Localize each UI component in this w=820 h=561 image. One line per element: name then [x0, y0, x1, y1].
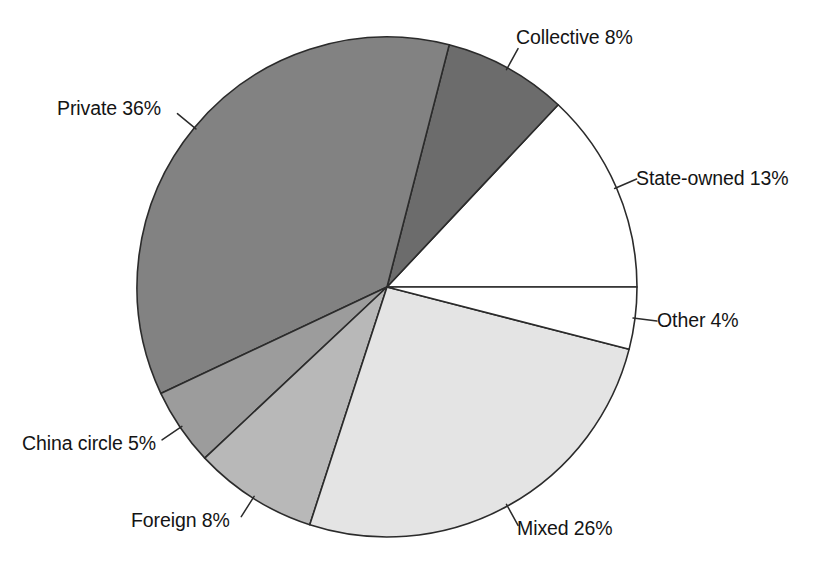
leader-line-foreign: [241, 496, 254, 516]
slice-label-other: Other 4%: [657, 311, 739, 331]
slice-label-private: Private 36%: [57, 99, 161, 119]
pie-chart-page: State-owned 13% Collective 8% Private 36…: [0, 0, 820, 561]
slice-label-state-owned: State-owned 13%: [636, 169, 788, 189]
pie-chart-canvas: [0, 0, 820, 561]
leader-line-china-circle: [162, 426, 182, 439]
slice-label-foreign: Foreign 8%: [131, 511, 230, 531]
leader-line-other: [633, 318, 657, 321]
leader-line-private: [177, 114, 195, 129]
leader-line-collective: [506, 49, 518, 70]
slice-label-china-circle: China circle 5%: [22, 434, 156, 454]
slice-label-mixed: Mixed 26%: [517, 519, 613, 539]
pie-slices-group: [137, 37, 637, 537]
slice-label-collective: Collective 8%: [516, 28, 633, 48]
leader-line-state-owned: [615, 179, 637, 189]
